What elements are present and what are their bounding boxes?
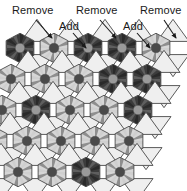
annotation-label-remove-3: Remove: [140, 4, 182, 16]
motif-center: [142, 74, 152, 84]
annotation-label-add-2: Add: [123, 20, 143, 32]
motif-center: [124, 136, 134, 146]
motif-center: [133, 105, 143, 115]
motif-center: [90, 136, 100, 146]
motif-center: [49, 43, 59, 53]
motif-center: [56, 136, 66, 146]
annotation-label-remove-1: Remove: [12, 4, 54, 16]
motif-center: [151, 43, 161, 53]
motif-center: [47, 167, 57, 177]
motif-center: [108, 74, 118, 84]
motif-center: [65, 105, 75, 115]
motif-center: [15, 43, 25, 53]
motif-center: [74, 74, 84, 84]
annotation-label-remove-2: Remove: [76, 4, 118, 16]
annotation-label-add-1: Add: [59, 20, 79, 32]
motif-center: [115, 167, 125, 177]
motif-center: [31, 105, 41, 115]
motif-center: [81, 167, 91, 177]
tessellation-diagram: RemoveAddRemoveAddRemove: [0, 0, 187, 191]
motif-center: [83, 43, 93, 53]
motif-center: [13, 167, 23, 177]
motif-center: [6, 74, 16, 84]
motif-center: [117, 43, 127, 53]
diagram-canvas: RemoveAddRemoveAddRemove: [0, 0, 187, 191]
motif-center: [40, 74, 50, 84]
motif-center: [22, 136, 32, 146]
motif-center: [99, 105, 109, 115]
